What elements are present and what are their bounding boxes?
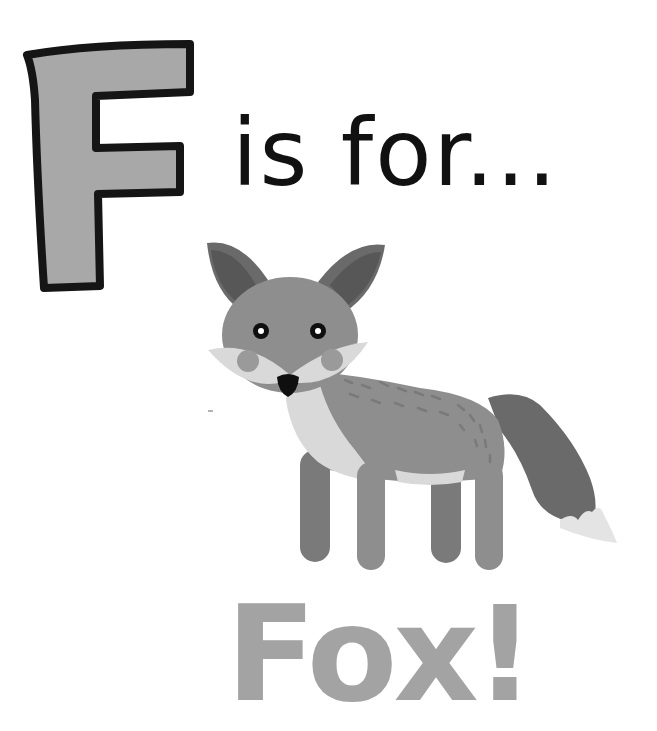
fox-leg-front-left — [357, 462, 385, 570]
word-fox: Fox! — [226, 590, 531, 718]
eye-highlight — [258, 328, 264, 334]
eye-highlight — [315, 328, 321, 334]
fox-leg-front-right — [475, 462, 503, 570]
fox-cheek-left — [237, 350, 259, 372]
fox-tail — [488, 394, 617, 543]
fox-cheek-right — [321, 349, 343, 371]
